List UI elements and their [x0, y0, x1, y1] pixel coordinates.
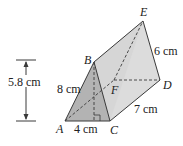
vertex-E: E [139, 5, 148, 19]
label-DE: 6 cm [154, 44, 178, 58]
vertex-D: D [162, 78, 172, 92]
label-CD: 7 cm [134, 102, 158, 116]
arrow-down-icon [24, 114, 29, 120]
arrow-up-icon [24, 61, 29, 67]
vertex-A: A [55, 122, 64, 136]
label-AB: 8 cm [57, 82, 81, 96]
vertex-B: B [84, 53, 92, 67]
prism-diagram: 5.8 cm 8 cm 4 cm 7 cm 6 cm A B C D E F [0, 0, 183, 146]
vertex-C: C [110, 123, 119, 137]
vertex-F: F [110, 83, 119, 97]
label-height: 5.8 cm [8, 75, 41, 89]
label-AC: 4 cm [74, 122, 98, 136]
